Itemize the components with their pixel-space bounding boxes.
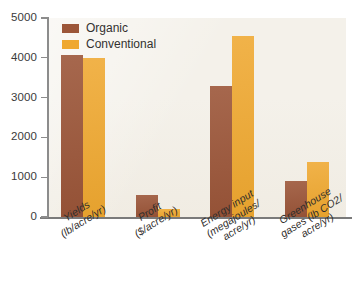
y-axis-tick-label: 5000 [11,12,37,24]
legend-item: Organic [62,21,156,35]
legend-label: Conventional [86,38,156,50]
caption-remnant [8,286,352,291]
x-axis-category-labels: Yields(lb/acre/yr)Profit($/acre/yr)Energ… [48,220,346,290]
y-axis-tick [41,57,48,58]
legend-swatch-icon [62,40,79,49]
legend-label: Organic [86,22,128,34]
legend-item: Conventional [62,37,156,51]
y-axis-tick [41,216,48,217]
y-axis-tick-label: 4000 [11,52,37,64]
y-axis-tick-label: 1000 [11,171,37,183]
y-axis-tick [41,97,48,98]
y-axis-tick-label: 0 [31,211,38,223]
y-axis-tick [41,137,48,138]
y-axis-tick-label: 3000 [11,92,37,104]
legend-swatch-icon [62,24,79,33]
bar-chart-figure: 010002000300040005000 OrganicConventiona… [0,0,360,293]
y-axis-tick [41,177,48,178]
y-axis-tick [41,17,48,18]
y-axis-tick-label: 2000 [11,131,37,143]
bar-organic [61,55,83,217]
bar-organic [210,86,232,217]
chart-legend: OrganicConventional [62,21,156,51]
